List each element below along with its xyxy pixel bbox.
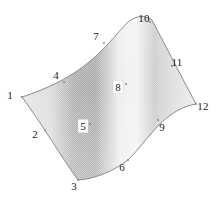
vertex-dot	[77, 179, 79, 181]
vertex-dot	[103, 42, 105, 44]
patch-halftone-texture	[0, 0, 219, 198]
vertex-dot	[21, 96, 23, 98]
vertex-dot	[89, 123, 91, 125]
point-label-7: 7	[93, 31, 99, 42]
point-label-2: 2	[32, 129, 38, 140]
point-label-3: 3	[71, 181, 77, 192]
point-label-8: 8	[113, 81, 123, 94]
point-label-11: 11	[172, 57, 183, 68]
point-label-1: 1	[7, 90, 13, 101]
surface-patch-figure: 123456789101112	[0, 0, 219, 198]
patch-surface-svg	[0, 0, 219, 198]
point-label-5: 5	[78, 120, 88, 133]
patch-body	[0, 0, 219, 198]
vertex-dot	[63, 81, 65, 83]
point-label-6: 6	[119, 162, 125, 173]
point-label-9: 9	[159, 122, 165, 133]
point-label-12: 12	[197, 101, 208, 112]
vertex-dot	[44, 129, 46, 131]
vertex-dot	[125, 83, 127, 85]
point-label-10: 10	[138, 13, 149, 24]
point-label-4: 4	[53, 70, 59, 81]
vertex-dot	[127, 159, 129, 161]
